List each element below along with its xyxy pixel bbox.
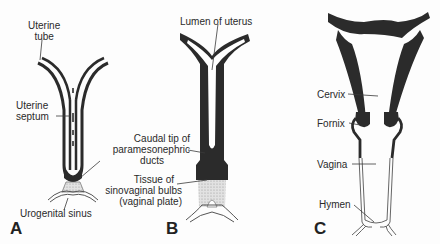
- panel-letter-b: B: [166, 219, 178, 239]
- label-caudal-tip: Caudal tip of paramesonephric ducts: [100, 133, 190, 166]
- label-tissue-sinovaginal-bulbs: Tissue of sinovaginal bulbs (vaginal pla…: [92, 174, 182, 207]
- label-tissue-line3: (vaginal plate): [92, 196, 182, 207]
- label-tissue-line2: sinovaginal bulbs: [92, 185, 182, 196]
- label-caudal-tip-line2: paramesonephric: [100, 144, 190, 155]
- label-lumen-of-uterus: Lumen of uterus: [180, 16, 252, 27]
- label-fornix: Fornix: [317, 118, 345, 129]
- label-caudal-tip-line1: Caudal tip of: [100, 133, 190, 144]
- label-hymen: Hymen: [319, 199, 351, 210]
- panel-letter-c: C: [314, 219, 326, 239]
- label-uterine-tube: Uterine tube: [28, 20, 60, 42]
- panel-b-drawing: [177, 24, 250, 222]
- panel-letter-a: A: [10, 219, 22, 239]
- figure-uterus-vagina-development: Uterine tube Uterine septum Urogenital s…: [0, 0, 440, 244]
- label-uterine-septum: Uterine septum: [16, 100, 49, 122]
- label-uterine-septum-line2: septum: [16, 111, 49, 122]
- label-caudal-tip-line3: ducts: [100, 155, 190, 166]
- label-uterine-tube-line2: tube: [28, 31, 60, 42]
- label-tissue-line1: Tissue of: [92, 174, 182, 185]
- label-vagina: Vagina: [317, 159, 347, 170]
- label-uterine-septum-line1: Uterine: [16, 100, 49, 111]
- label-uterine-tube-line1: Uterine: [28, 20, 60, 31]
- label-urogenital-sinus: Urogenital sinus: [20, 208, 92, 219]
- label-cervix: Cervix: [317, 89, 345, 100]
